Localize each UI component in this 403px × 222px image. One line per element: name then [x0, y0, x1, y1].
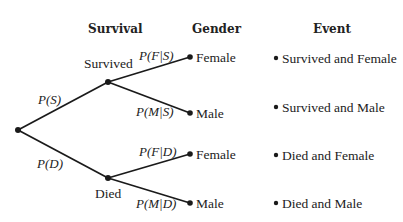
male-died-node — [187, 200, 193, 206]
prob-male-given-survived: P(M|S) — [135, 104, 174, 119]
survived-label: Survived — [84, 56, 133, 71]
event-survived-female: Survived and Female — [282, 51, 397, 66]
edge-root-survived — [18, 82, 108, 130]
event-died-female: Died and Female — [282, 148, 374, 163]
prob-survived: P(S) — [37, 92, 61, 107]
event-bullet-icon — [274, 201, 278, 205]
male-survived-label: Male — [196, 106, 224, 121]
prob-male-given-died: P(M|D) — [135, 196, 176, 211]
event-bullet-icon — [274, 153, 278, 157]
survived-node — [105, 79, 111, 85]
event-died-male: Died and Male — [282, 196, 362, 211]
event-survived-male: Survived and Male — [282, 100, 385, 115]
male-died-label: Male — [196, 196, 224, 211]
header-survival: Survival — [88, 22, 143, 36]
header-gender: Gender — [192, 22, 242, 36]
female-died-node — [187, 151, 193, 157]
prob-died: P(D) — [36, 156, 63, 171]
prob-female-given-died: P(F|D) — [138, 144, 177, 159]
event-bullet-icon — [274, 56, 278, 60]
header-event: Event — [313, 22, 351, 36]
female-survived-node — [187, 54, 193, 60]
died-label: Died — [95, 186, 121, 201]
edge-root-died — [18, 130, 108, 178]
event-bullet-icon — [274, 105, 278, 109]
female-died-label: Female — [196, 147, 236, 162]
root-node — [15, 127, 21, 133]
died-node — [105, 175, 111, 181]
male-survived-node — [187, 110, 193, 116]
prob-female-given-survived: P(F|S) — [138, 48, 174, 63]
probability-tree-diagram: Survival Gender Event Survived Died Fema… — [0, 0, 403, 222]
female-survived-label: Female — [196, 50, 236, 65]
